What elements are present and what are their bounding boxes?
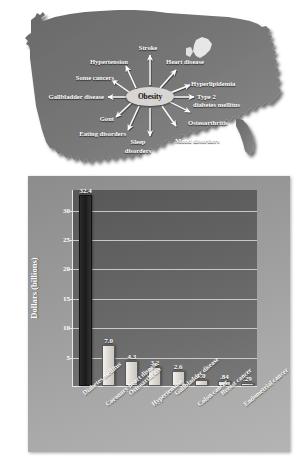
y-axis-label: Dollars (billions) [29, 257, 39, 318]
y-tick-label: 30 [63, 207, 70, 215]
bar-slot: 7.0 [102, 190, 115, 386]
y-tick-label: 20 [63, 265, 70, 273]
diagram-label-type2: Type 2 [197, 93, 216, 101]
diagram-label-mood-disorders: Mood disorders [175, 137, 220, 145]
diagram-label-hyperlipidemia: Hyperlipidemia [191, 80, 235, 88]
bar-value-label: 7.0 [104, 337, 113, 345]
bar-slot: 4.3 [125, 190, 138, 386]
diagram-label-heart-disease: Heart disease [166, 58, 204, 66]
y-tick-label: 15 [63, 295, 70, 303]
y-tick-label: 25 [63, 236, 70, 244]
x-axis-labels: Diabetes mellitusCoronary heart diseaseO… [72, 389, 290, 451]
bar-chart-panel: Dollars (billions) 51015202530 32.47.04.… [28, 176, 290, 452]
bar-slot: 3.2 [148, 190, 161, 386]
bar-value-label: 4.3 [127, 353, 136, 361]
plot-area: 51015202530 32.47.04.33.22.61.0.84.29 [72, 190, 257, 387]
bar[interactable]: 1.0 [195, 380, 208, 386]
diagram-label-diabetes-mellitus: diabetes mellitus [193, 101, 240, 109]
bar-value-label: 2.6 [174, 363, 183, 371]
bar-series: 32.47.04.33.22.61.0.84.29 [73, 190, 257, 386]
diagram-label-stroke: Stroke [118, 44, 178, 52]
diagram-label-gallbladder-disease: Gallbladder disease [36, 93, 104, 101]
figure-root: Obesity Stroke Heart disease Hyperlipide… [0, 0, 300, 463]
y-tick-label: 5 [67, 354, 71, 362]
diagram-label-eating-disorders: Eating disorders [58, 130, 126, 138]
obesity-node-label: Obesity [126, 87, 174, 106]
diagram-label-gout: Gout [74, 115, 114, 123]
diagram-label-osteoarthritis: Osteoarthritis [188, 119, 228, 127]
bar-slot: .84 [218, 190, 231, 386]
bar-slot: 2.6 [172, 190, 185, 386]
bar-slot: 32.4 [79, 190, 92, 386]
diagram-label-sleep: Sleep [116, 138, 160, 146]
bar-slot: 1.0 [195, 190, 208, 386]
obesity-radial-diagram: Obesity Stroke Heart disease Hyperlipide… [0, 0, 300, 200]
bar-value-label: 32.4 [79, 187, 91, 195]
y-tick-label: 10 [63, 324, 70, 332]
obesity-node: Obesity [126, 87, 174, 106]
bar-slot: .29 [241, 190, 254, 386]
diagram-label-sleep-disorders: disorders [112, 147, 164, 155]
bar[interactable]: 32.4 [79, 195, 92, 386]
diagram-label-hypertension: Hypertension [66, 58, 128, 66]
diagram-label-some-cancers: Some cancers [52, 74, 114, 82]
bar[interactable]: .29 [241, 383, 254, 386]
